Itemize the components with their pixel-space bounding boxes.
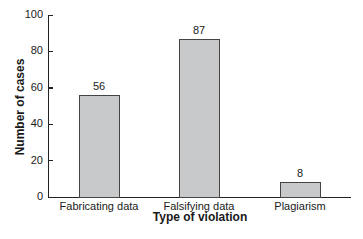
bar-fabricating-data: [79, 95, 120, 198]
x-axis-label: Type of violation: [120, 210, 280, 224]
bar-value-label: 56: [79, 80, 119, 92]
y-tick-label: 100: [21, 8, 43, 20]
bar-plagiarism: [280, 182, 321, 198]
y-tick-label: 0: [21, 190, 43, 202]
y-tick-mark: [48, 124, 53, 125]
y-tick-mark: [48, 87, 53, 88]
bar-value-label: 87: [179, 24, 219, 36]
x-category-label: Falsifying data: [144, 200, 254, 212]
y-axis-line: [48, 15, 49, 198]
y-tick-mark: [48, 51, 53, 52]
y-axis-label: Number of cases: [13, 57, 27, 157]
bar-falsifying-data: [179, 39, 220, 198]
x-category-label: Fabricating data: [44, 200, 154, 212]
y-tick-label: 80: [21, 44, 43, 56]
bar-value-label: 8: [280, 167, 320, 179]
y-tick-label: 40: [21, 117, 43, 129]
y-tick-mark: [48, 15, 53, 16]
y-tick-mark: [48, 197, 53, 198]
x-category-label: Plagiarism: [245, 200, 355, 212]
y-tick-mark: [48, 160, 53, 161]
y-tick-label: 60: [21, 81, 43, 93]
y-tick-label: 20: [21, 154, 43, 166]
